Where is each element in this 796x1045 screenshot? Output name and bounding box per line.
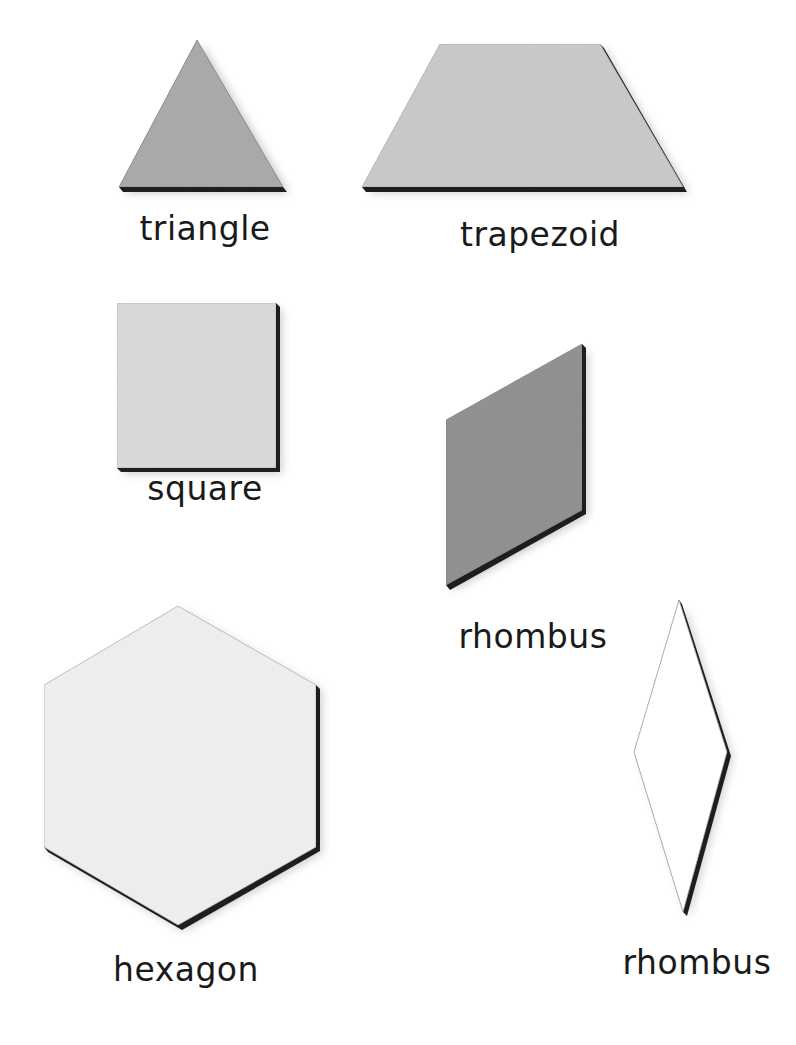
triangle-shape: [119, 40, 289, 193]
rhombus-thin-shape: [634, 600, 733, 918]
label-trapezoid: trapezoid: [460, 218, 620, 251]
label-hexagon: hexagon: [113, 953, 259, 986]
label-triangle: triangle: [139, 212, 270, 245]
shapes-figure: [0, 0, 796, 1045]
square-shape: [117, 303, 282, 474]
label-rhombus-dark: rhombus: [459, 620, 608, 653]
rhombus-dark-shape: [446, 344, 588, 591]
trapezoid-shape: [362, 44, 689, 193]
label-square: square: [147, 472, 262, 505]
label-rhombus-thin: rhombus: [623, 946, 772, 979]
hexagon-shape: [44, 606, 322, 931]
